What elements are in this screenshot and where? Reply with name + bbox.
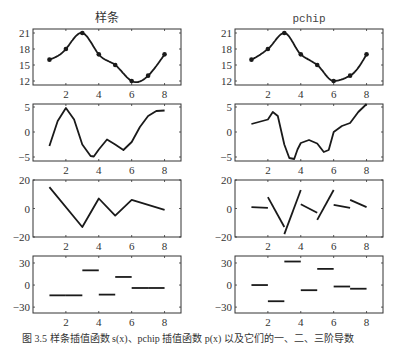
- curve-line: [49, 187, 164, 227]
- x-tick-label: 2: [63, 316, 69, 328]
- x-tick-label: 2: [63, 164, 69, 176]
- data-point-marker: [162, 52, 167, 57]
- x-tick-label: 8: [162, 164, 168, 176]
- y-tick-label: 0: [227, 126, 233, 138]
- x-tick-label: 8: [364, 164, 370, 176]
- y-tick-label: −5: [18, 151, 30, 163]
- x-tick-label: 4: [298, 316, 304, 328]
- subplot-row3-right: 2468−20020: [215, 174, 383, 252]
- x-tick-label: 6: [331, 88, 337, 100]
- y-tick-label: 0: [25, 126, 31, 138]
- curve-line: [49, 108, 164, 157]
- axes-frame: [33, 256, 181, 313]
- data-point-marker: [282, 31, 287, 36]
- y-tick-label: 0: [227, 203, 233, 215]
- y-tick-label: −20: [13, 231, 31, 243]
- y-tick-label: 0: [25, 279, 31, 291]
- data-point-marker: [146, 73, 151, 78]
- data-point-marker: [348, 73, 353, 78]
- y-tick-label: 12: [19, 75, 30, 87]
- data-point-marker: [129, 79, 134, 84]
- x-tick-label: 6: [331, 164, 337, 176]
- y-tick-label: 20: [221, 174, 233, 186]
- y-tick-label: 0: [25, 203, 31, 215]
- segment-line: [268, 197, 284, 227]
- segment-line: [317, 190, 333, 220]
- axes-frame: [33, 104, 181, 161]
- segment-line: [334, 205, 350, 208]
- x-tick-label: 6: [331, 316, 337, 328]
- y-tick-label: 20: [19, 174, 31, 186]
- segment-line: [284, 190, 300, 234]
- segment-line: [251, 207, 267, 208]
- x-tick-label: 6: [129, 88, 135, 100]
- x-tick-label: 8: [364, 240, 370, 252]
- data-point-marker: [249, 57, 254, 62]
- y-tick-label: 21: [19, 27, 30, 39]
- data-point-marker: [298, 52, 303, 57]
- x-tick-label: 2: [265, 88, 271, 100]
- data-point-marker: [364, 52, 369, 57]
- x-tick-label: 6: [129, 240, 135, 252]
- y-tick-label: −30: [215, 301, 233, 313]
- segment-line: [301, 204, 317, 213]
- y-tick-label: −20: [215, 231, 233, 243]
- subplot-row1-right: 246812151821pchip: [221, 13, 383, 100]
- x-tick-label: 4: [298, 88, 304, 100]
- y-tick-label: 21: [221, 27, 232, 39]
- x-tick-label: 4: [96, 240, 102, 252]
- figure-caption: 图 3.5 样条插值函数 s(x)、pchip 插值函数 p(x) 以及它们的一…: [22, 330, 354, 345]
- x-tick-label: 4: [96, 164, 102, 176]
- data-point-marker: [315, 63, 320, 68]
- x-tick-label: 6: [129, 316, 135, 328]
- subplot-row4-right: 2468−30030: [215, 256, 383, 328]
- y-tick-label: 18: [19, 43, 31, 55]
- data-point-marker: [331, 79, 336, 84]
- x-tick-label: 2: [265, 316, 271, 328]
- x-tick-label: 4: [96, 88, 102, 100]
- x-tick-label: 6: [331, 240, 337, 252]
- y-tick-label: 12: [221, 75, 232, 87]
- data-point-marker: [80, 31, 85, 36]
- x-tick-label: 2: [63, 240, 69, 252]
- x-tick-label: 2: [63, 88, 69, 100]
- segment-line: [350, 200, 366, 207]
- y-tick-label: 30: [19, 257, 31, 269]
- x-tick-label: 2: [265, 240, 271, 252]
- subplot-row2-left: 2468−505: [18, 101, 181, 176]
- y-tick-label: 15: [19, 59, 31, 71]
- x-tick-label: 8: [364, 316, 370, 328]
- y-tick-label: −5: [220, 151, 232, 163]
- y-tick-label: 5: [25, 101, 31, 113]
- subplot-title: 样条: [95, 10, 119, 25]
- x-tick-label: 6: [129, 164, 135, 176]
- data-point-marker: [266, 47, 271, 52]
- subplot-row3-left: 2468−20020: [13, 174, 181, 252]
- subplot-row4-left: 2468−30030: [13, 256, 181, 328]
- x-tick-label: 4: [96, 316, 102, 328]
- data-point-marker: [96, 52, 101, 57]
- y-tick-label: 0: [227, 279, 233, 291]
- axes-frame: [235, 104, 383, 161]
- y-tick-label: 18: [221, 43, 233, 55]
- y-tick-label: 15: [221, 59, 233, 71]
- subplot-row2-right: 2468−505: [220, 101, 383, 176]
- y-tick-label: 30: [221, 257, 233, 269]
- x-tick-label: 4: [298, 164, 304, 176]
- x-tick-label: 8: [162, 88, 168, 100]
- x-tick-label: 8: [364, 88, 370, 100]
- data-point-marker: [64, 47, 69, 52]
- subplot-title: pchip: [292, 13, 325, 25]
- data-point-marker: [113, 63, 118, 68]
- curve-line: [251, 104, 366, 159]
- y-tick-label: −30: [13, 301, 31, 313]
- x-tick-label: 8: [162, 240, 168, 252]
- x-tick-label: 8: [162, 316, 168, 328]
- x-tick-label: 2: [265, 164, 271, 176]
- x-tick-label: 4: [298, 240, 304, 252]
- y-tick-label: 5: [227, 101, 233, 113]
- data-point-marker: [47, 57, 52, 62]
- subplot-row1-left: 246812151821样条: [19, 10, 181, 100]
